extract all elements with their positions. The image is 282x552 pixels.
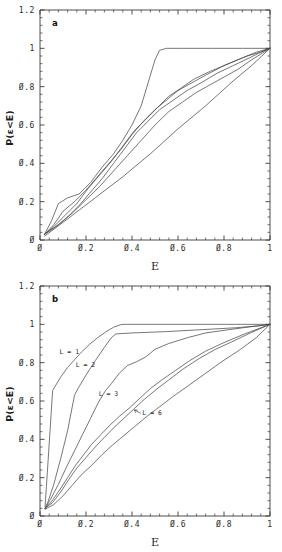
panel-b-axes-frame	[40, 286, 270, 516]
panel-b-tick-labels: ØØ.2Ø.4Ø.6Ø.81ØØ.2Ø.4Ø.6Ø.811.2	[19, 282, 273, 529]
y-tick-label: Ø	[30, 235, 35, 245]
y-tick-label: Ø.4	[19, 158, 35, 168]
panel-a-tag: a	[52, 18, 58, 28]
panel-b-curve-annotations: L = 1L = 2L = 3L = 6	[60, 348, 162, 417]
figure-root: ØØ.2Ø.4Ø.6Ø.81ØØ.2Ø.4Ø.6Ø.811.2 a E P(ε<…	[0, 0, 282, 552]
panel-b-canvas: ØØ.2Ø.4Ø.6Ø.81ØØ.2Ø.4Ø.6Ø.811.2 L = 1L =…	[0, 276, 282, 552]
y-tick-label: Ø.8	[19, 82, 35, 92]
y-tick-label: Ø.6	[19, 396, 35, 406]
x-tick-label: Ø.6	[170, 519, 186, 529]
panel-b-y-axis-title: P(ε<E)	[4, 386, 15, 421]
y-tick-label: 1.2	[19, 6, 35, 15]
x-tick-label: Ø.4	[124, 519, 140, 529]
panel-a-canvas: ØØ.2Ø.4Ø.6Ø.81ØØ.2Ø.4Ø.6Ø.811.2 a E P(ε<…	[0, 0, 282, 276]
curve-annotation: L = 6	[142, 409, 162, 417]
y-tick-label: Ø.2	[19, 197, 35, 207]
panel-a-x-axis-title: E	[151, 260, 159, 273]
x-tick-label: Ø.6	[170, 243, 186, 253]
y-tick-label: Ø.8	[19, 358, 35, 368]
curve-curve-6-diagonal	[45, 48, 270, 236]
panel-a: ØØ.2Ø.4Ø.6Ø.81ØØ.2Ø.4Ø.6Ø.811.2 a E P(ε<…	[0, 0, 282, 276]
panel-a-tick-labels: ØØ.2Ø.4Ø.6Ø.81ØØ.2Ø.4Ø.6Ø.811.2	[19, 6, 273, 253]
curve-annotation: L = 2	[76, 361, 96, 369]
y-tick-label: Ø.2	[19, 473, 35, 483]
x-tick-label: 1	[267, 244, 272, 253]
curve-annotation: L = 3	[99, 390, 119, 398]
y-tick-label: 1.2	[19, 282, 35, 291]
x-tick-label: Ø.8	[216, 243, 232, 253]
x-tick-label: Ø.8	[216, 519, 232, 529]
x-tick-label: Ø	[37, 243, 42, 253]
curve-curve-4	[45, 48, 270, 234]
y-tick-label: 1	[30, 44, 35, 53]
panel-b-ticks	[40, 286, 270, 516]
x-tick-label: 1	[267, 520, 272, 529]
x-tick-label: Ø.2	[78, 243, 94, 253]
x-tick-label: Ø	[37, 519, 42, 529]
panel-b-x-axis-title: E	[151, 536, 159, 549]
panel-a-curves	[45, 48, 270, 236]
x-tick-label: Ø.2	[78, 519, 94, 529]
panel-b: ØØ.2Ø.4Ø.6Ø.81ØØ.2Ø.4Ø.6Ø.811.2 L = 1L =…	[0, 276, 282, 552]
x-tick-label: Ø.4	[124, 243, 140, 253]
y-tick-label: 1	[30, 320, 35, 329]
panel-b-tag: b	[52, 294, 58, 304]
y-tick-label: Ø.6	[19, 120, 35, 130]
y-tick-label: Ø.4	[19, 434, 35, 444]
y-tick-label: Ø	[30, 511, 35, 521]
curve-annotation: L = 1	[60, 348, 80, 356]
panel-a-y-axis-title: P(ε<E)	[4, 110, 15, 145]
